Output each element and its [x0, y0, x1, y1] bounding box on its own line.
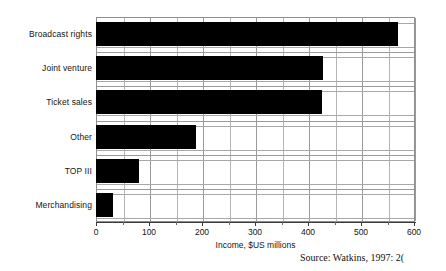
gridline-horizontal [97, 52, 414, 53]
gridline-vertical [336, 18, 337, 221]
category-label: Other [0, 132, 92, 142]
bar-row [96, 193, 414, 217]
gridline-horizontal [97, 150, 414, 151]
gridline-vertical [230, 18, 231, 221]
gridline-horizontal [97, 121, 414, 122]
gridline-horizontal [97, 184, 414, 185]
category-label: TOP III [0, 166, 92, 176]
gridline-horizontal [97, 47, 414, 48]
bar-row [96, 159, 414, 183]
x-axis-title: Income, $US millions [96, 240, 415, 251]
gridline-vertical [415, 18, 416, 221]
x-axis-tick [229, 222, 230, 225]
gridline-vertical [177, 18, 178, 221]
gridline-horizontal [97, 86, 414, 87]
gridline-horizontal [97, 115, 414, 116]
bar-row [96, 125, 414, 149]
gridline-vertical [203, 18, 204, 221]
bar-row [96, 90, 414, 114]
gridline-horizontal [97, 155, 414, 156]
x-axis-tick-label: 300 [235, 227, 275, 238]
bar [96, 159, 139, 183]
gridline-vertical [150, 18, 151, 221]
bar [96, 22, 398, 46]
x-axis-tick [176, 222, 177, 225]
x-axis-tick [335, 222, 336, 225]
x-axis-tick [388, 222, 389, 225]
plot-area [96, 17, 415, 222]
x-axis-tick [282, 222, 283, 225]
bar-chart-figure: Broadcast rightsJoint ventureTicket sale… [0, 0, 446, 271]
category-label: Merchandising [0, 200, 92, 210]
x-axis-tick [96, 222, 97, 226]
x-axis-tick [123, 222, 124, 225]
category-label: Ticket sales [0, 97, 92, 107]
gridline-horizontal [97, 189, 414, 190]
bar [96, 90, 322, 114]
x-axis-tick [149, 222, 150, 226]
gridline-vertical [362, 18, 363, 221]
bar [96, 125, 196, 149]
x-axis-tick-label: 200 [182, 227, 222, 238]
x-axis-tick-label: 500 [341, 227, 381, 238]
gridline-vertical [256, 18, 257, 221]
x-axis-tick-label: 600 [394, 227, 434, 238]
gridline-vertical [124, 18, 125, 221]
x-axis-tick-label: 400 [288, 227, 328, 238]
gridline-vertical [309, 18, 310, 221]
x-axis-tick-label: 100 [129, 227, 169, 238]
x-axis-tick [308, 222, 309, 226]
category-label: Joint venture [0, 63, 92, 73]
gridline-vertical [283, 18, 284, 221]
x-axis-tick [361, 222, 362, 226]
bar [96, 56, 323, 80]
x-axis-tick [414, 222, 415, 226]
category-label: Broadcast rights [0, 29, 92, 39]
x-axis-tick-label: 0 [76, 227, 116, 238]
bar [96, 193, 113, 217]
x-axis-tick [255, 222, 256, 226]
gridline-vertical [389, 18, 390, 221]
source-note: Source: Watkins, 1997: 2( [300, 252, 404, 264]
gridline-horizontal [97, 81, 414, 82]
gridline-horizontal [97, 218, 414, 219]
x-axis-tick [202, 222, 203, 226]
bar-row [96, 56, 414, 80]
bar-row [96, 22, 414, 46]
x-axis-line [96, 222, 416, 223]
